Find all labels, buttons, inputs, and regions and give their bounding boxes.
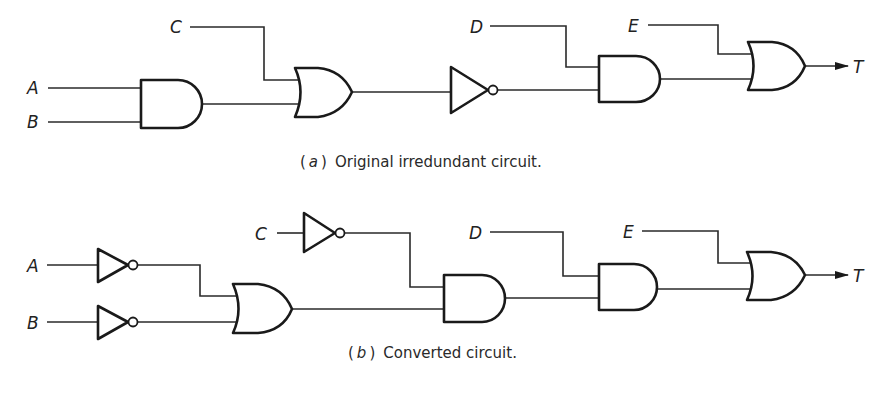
input-label-a-D: D [470, 17, 483, 37]
input-label-b-B: B [27, 313, 39, 333]
input-label-a-C: C [170, 17, 182, 37]
not-gate-b-A [98, 249, 138, 282]
input-label-a-E: E [628, 16, 639, 36]
and-gate-b1 [444, 275, 505, 322]
input-label-b-C: C [255, 224, 267, 244]
caption-a: (a)Original irredundant circuit. [300, 153, 542, 171]
circuit-b: A B C D E T [26, 213, 865, 339]
or-gate-b1 [233, 284, 292, 333]
and-gate-a2 [599, 56, 660, 102]
or-gate-a1 [295, 68, 352, 117]
input-label-a-B: B [27, 112, 39, 132]
circuit-figure: A B C D E T [0, 0, 889, 416]
input-label-b-E: E [623, 222, 634, 242]
and-gate-a1 [141, 80, 202, 128]
not-gate-b-C [304, 213, 345, 252]
or-gate-a2 [748, 42, 805, 90]
input-label-a-A: A [26, 78, 39, 98]
not-gate-b-B [98, 306, 138, 339]
output-label-b-T: T [853, 266, 865, 286]
output-label-a-T: T [853, 57, 865, 77]
input-label-b-D: D [469, 223, 482, 243]
or-gate-b2 [747, 252, 805, 300]
not-gate-a1 [451, 67, 498, 113]
and-gate-b2 [599, 264, 657, 310]
input-label-b-A: A [26, 256, 39, 276]
caption-b: (b)Converted circuit. [348, 344, 517, 362]
circuit-a: A B C D E T [26, 16, 865, 132]
